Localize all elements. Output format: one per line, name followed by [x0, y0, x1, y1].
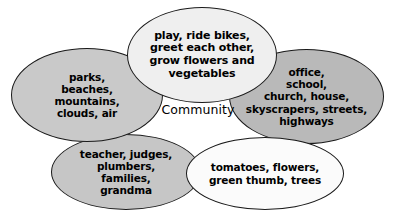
- nature-bubble-label: parks, beaches, mountains, clouds, air: [48, 71, 125, 120]
- activities-bubble-label: play, ride bikes, greet each other, grow…: [143, 30, 260, 81]
- activities-bubble: play, ride bikes, greet each other, grow…: [127, 7, 277, 103]
- people-bubble: teacher, judges, plumbers, families, gra…: [51, 134, 201, 210]
- garden-bubble: tomatoes, flowers, green thumb, trees: [186, 137, 344, 210]
- people-bubble-label: teacher, judges, plumbers, families, gra…: [74, 148, 178, 197]
- center-label: Community: [148, 102, 248, 117]
- garden-bubble-label: tomatoes, flowers, green thumb, trees: [203, 161, 327, 185]
- community-concept-diagram: office, school, church, house, skyscrape…: [0, 0, 395, 219]
